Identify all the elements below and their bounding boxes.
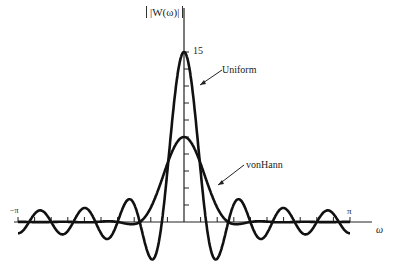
chart-plot	[0, 0, 399, 271]
y-axis-label: |W(ω)|	[146, 6, 183, 18]
pos-pi-label: π	[347, 206, 352, 216]
neg-pi-label: −π	[10, 206, 19, 215]
x-axis-label: ω	[376, 224, 383, 235]
vonhann-label: vonHann	[246, 159, 283, 170]
y-tick-15: 15	[193, 45, 203, 56]
uniform-label: Uniform	[222, 64, 256, 75]
